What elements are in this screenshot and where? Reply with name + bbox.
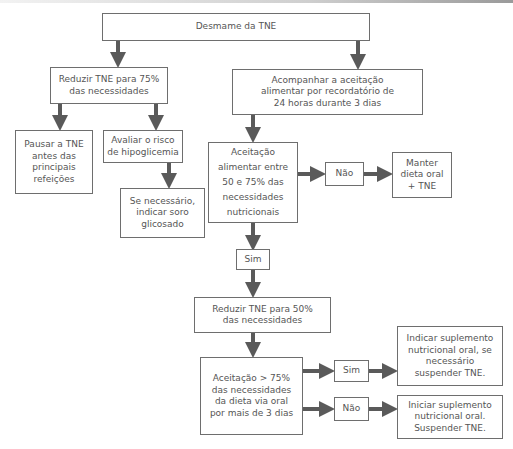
- node-yes-1: Sim: [236, 249, 270, 270]
- node-follow-up: Acompanhar a aceitação alimentar por rec…: [232, 69, 423, 115]
- node-root: Desmame da TNE: [102, 13, 370, 41]
- node-acceptance-75: Aceitação > 75% das necessidades da diet…: [200, 357, 303, 435]
- node-keep-oral-diet: Manter dieta oral + TNE: [392, 152, 452, 198]
- node-pause-tne: Pausar a TNE antes das principais refeiç…: [15, 130, 93, 194]
- node-no-1: Não: [325, 162, 364, 186]
- node-indicate-supplement: Indicar suplemento nutricional oral, se …: [397, 326, 503, 386]
- node-reduce-50: Reduzir TNE para 50% das necessidades: [194, 297, 331, 333]
- node-hypoglycemia-risk: Avaliar o risco de hipoglicemia: [103, 130, 183, 163]
- node-reduce-75: Reduzir TNE para 75% das necessidades: [50, 67, 168, 104]
- node-yes-2: Sim: [334, 360, 369, 382]
- node-no-2: Não: [334, 397, 369, 421]
- node-glucose-serum: Se necessário, indicar soro glicosado: [120, 188, 205, 238]
- node-start-supplement: Iniciar suplemento nutricional oral. Sus…: [397, 395, 503, 439]
- node-acceptance-50-75: Aceitação alimentar entre 50 e 75% das n…: [208, 142, 298, 223]
